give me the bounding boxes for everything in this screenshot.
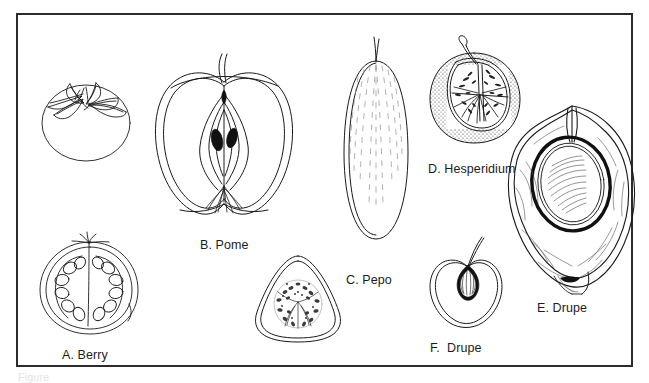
plate-frame-border: A. Berry bbox=[16, 13, 633, 367]
label-e-drupe: E. Drupe bbox=[537, 302, 587, 315]
figure-bottom-caption: Figure bbox=[18, 371, 49, 383]
label-f-drupe: F. Drupe bbox=[430, 342, 482, 355]
cucumber-cross-section-drawing bbox=[243, 250, 353, 350]
apple-cross-section-drawing bbox=[146, 50, 306, 230]
tomato-cross-section-drawing bbox=[32, 230, 152, 340]
label-a-berry: A. Berry bbox=[62, 349, 108, 362]
cucumber-whole-drawing bbox=[336, 35, 416, 250]
label-c-pepo: C. Pepo bbox=[346, 274, 392, 287]
label-b-pome: B. Pome bbox=[200, 239, 249, 252]
figure-plate: A. Berry bbox=[0, 0, 649, 383]
cherry-drupe-drawing bbox=[416, 233, 526, 343]
whole-tomato-drawing bbox=[30, 60, 150, 165]
